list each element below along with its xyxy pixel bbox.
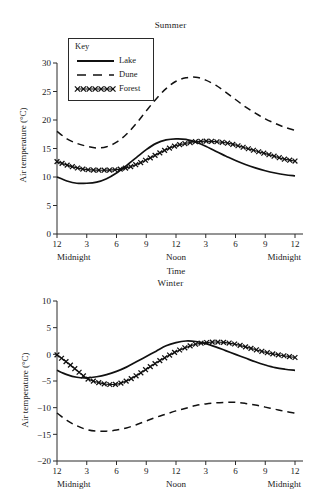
x-tick-label: 9 xyxy=(263,466,268,476)
y-tick-label: 25 xyxy=(42,87,52,97)
legend-title: Key xyxy=(75,41,89,51)
winter-plot-svg: −20−15−10−50510123691236912MidnightNoonM… xyxy=(0,272,313,492)
forest-x-marker xyxy=(129,376,134,381)
x-daypart-noon: Noon xyxy=(166,252,186,262)
forest-x-marker xyxy=(162,148,167,153)
x-daypart-midnight-right: Midnight xyxy=(267,479,301,489)
forest-x-marker xyxy=(172,350,177,355)
forest-x-marker xyxy=(59,356,64,361)
legend-swatch-dashed-line-icon xyxy=(74,68,117,82)
y-tick-label: 0 xyxy=(47,350,52,360)
x-tick-label: 12 xyxy=(53,466,62,476)
summer-plot-svg: 051015202530123691236912MidnightNoonMidn… xyxy=(0,0,313,280)
forest-x-marker xyxy=(148,364,153,369)
x-tick-label: 3 xyxy=(204,466,209,476)
forest-x-marker xyxy=(148,155,153,160)
forest-x-marker xyxy=(143,158,148,163)
y-tick-label: 10 xyxy=(42,172,52,182)
forest-x-marker xyxy=(134,373,139,378)
x-tick-label: 6 xyxy=(233,466,238,476)
forest-x-marker xyxy=(167,353,172,358)
y-tick-label: 0 xyxy=(47,229,52,239)
forest-x-marker xyxy=(124,379,129,384)
forest-x-marker xyxy=(138,370,143,375)
x-tick-label: 9 xyxy=(144,466,149,476)
legend-swatch-x-marker-line-icon xyxy=(74,82,117,96)
x-tick-label: 9 xyxy=(263,239,268,249)
legend-label-dune: Dune xyxy=(119,69,137,79)
legend-key-box: Key Lake Dune Forest xyxy=(68,38,154,101)
x-tick-label: 12 xyxy=(172,466,181,476)
x-daypart-noon: Noon xyxy=(166,479,186,489)
x-tick-label: 6 xyxy=(233,239,238,249)
x-tick-label: 12 xyxy=(172,239,181,249)
x-tick-label: 6 xyxy=(114,239,119,249)
x-tick-label: 12 xyxy=(53,239,62,249)
y-tick-label: −5 xyxy=(41,376,51,386)
figure-two-line-charts: Summer Air temperature (°C) 051015202530… xyxy=(0,0,313,492)
forest-x-marker xyxy=(162,355,167,360)
y-tick-label: 5 xyxy=(47,323,52,333)
legend-item-dune: Dune xyxy=(74,68,152,82)
y-tick-label: 20 xyxy=(42,115,52,125)
forest-x-marker xyxy=(153,153,158,158)
y-tick-label: 5 xyxy=(47,201,52,211)
forest-x-marker xyxy=(182,345,187,350)
y-tick-label: 15 xyxy=(42,144,52,154)
x-tick-label: 3 xyxy=(85,239,90,249)
forest-x-marker xyxy=(64,359,69,364)
y-tick-label: 30 xyxy=(42,58,52,68)
winter-chart-panel: Winter Air temperature (°C) −20−15−10−50… xyxy=(0,272,313,492)
forest-x-marker xyxy=(138,160,143,165)
y-tick-label: −15 xyxy=(37,430,52,440)
x-tick-label: 9 xyxy=(144,239,149,249)
forest-x-marker xyxy=(157,358,162,363)
x-tick-label: 3 xyxy=(85,466,90,476)
forest-x-marker xyxy=(143,367,148,372)
forest-x-marker xyxy=(177,348,182,353)
series-line-dune xyxy=(57,402,295,431)
x-tick-label: 3 xyxy=(204,239,209,249)
y-tick-label: −10 xyxy=(37,403,52,413)
x-daypart-midnight-left: Midnight xyxy=(57,252,91,262)
legend-item-forest: Forest xyxy=(74,82,152,96)
forest-x-marker xyxy=(153,361,158,366)
y-tick-label: 10 xyxy=(42,296,52,306)
forest-x-marker xyxy=(133,162,138,167)
y-tick-label: −20 xyxy=(37,456,52,466)
legend-item-lake: Lake xyxy=(74,54,152,68)
summer-chart-panel: Summer Air temperature (°C) 051015202530… xyxy=(0,0,313,280)
legend-label-lake: Lake xyxy=(119,55,136,65)
x-tick-label: 12 xyxy=(291,466,300,476)
x-tick-label: 12 xyxy=(291,239,300,249)
x-tick-label: 6 xyxy=(114,466,119,476)
legend-swatch-solid-line-icon xyxy=(74,54,117,68)
x-daypart-midnight-right: Midnight xyxy=(267,252,301,262)
forest-x-marker xyxy=(167,146,172,151)
x-daypart-midnight-left: Midnight xyxy=(57,479,91,489)
series-line-lake xyxy=(57,341,295,378)
forest-x-marker xyxy=(157,150,162,155)
legend-label-forest: Forest xyxy=(119,83,140,93)
